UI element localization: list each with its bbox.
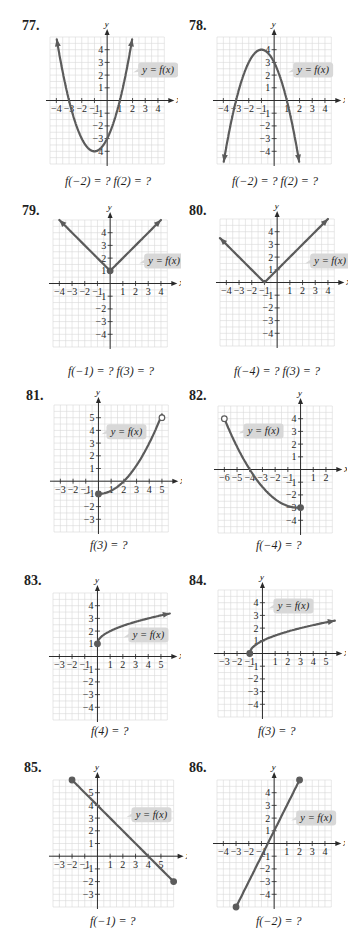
x-axis-label: x (343, 646, 346, 658)
y-tick-label: 3 (268, 238, 273, 249)
x-tick-label: 1 (272, 656, 277, 667)
x-tick-label: −2 (246, 285, 257, 296)
x-axis-label: x (178, 276, 181, 288)
question-caption: f(−2) = ? f(2) = ? (65, 174, 151, 189)
y-tick-label: −2 (262, 302, 273, 313)
x-tick-label: 3 (313, 285, 318, 296)
x-tick-label: −2 (66, 859, 77, 870)
x-tick-label: 2 (297, 103, 302, 114)
x-tick-label: 3 (133, 859, 138, 870)
x-tick-label: −2 (66, 659, 77, 670)
y-tick-label: −2 (82, 876, 93, 887)
x-tick-label: −4 (51, 103, 62, 114)
grid (54, 405, 168, 532)
function-label: y = f(x) (133, 62, 178, 77)
x-tick-label: 2 (324, 472, 329, 483)
y-tick-label: −3 (82, 689, 93, 700)
y-axis-label: y (94, 391, 100, 397)
x-tick-label: 4 (145, 859, 150, 870)
y-tick-label: 2 (292, 438, 297, 449)
x-tick-label: −3 (219, 656, 230, 667)
graph-77: xy−4−3−2−11234−4−3−2−11234y = f(x) (36, 23, 178, 178)
y-tick-label: −1 (92, 107, 103, 118)
x-axis-label: x (342, 93, 345, 105)
x-tick-label: −2 (243, 846, 254, 857)
y-tick-label: 4 (89, 425, 94, 436)
x-tick-label: 4 (325, 285, 330, 296)
y-tick-label: −2 (286, 489, 297, 500)
y-tick-label: −4 (259, 888, 270, 899)
question-caption: f(−2) = ? (256, 914, 302, 929)
y-tick-label: 3 (98, 56, 103, 67)
x-tick-label: −3 (231, 846, 242, 857)
x-tick-label: −2 (270, 472, 281, 483)
question-caption: f(3) = ? (90, 538, 127, 553)
open-dot-icon (159, 415, 165, 421)
y-tick-label: 1 (88, 638, 93, 649)
y-tick-label: 1 (88, 838, 93, 849)
y-tick-label: 1 (265, 825, 270, 836)
graph-82: xy−6−5−4−3−2−112−4−3−2−11234y = f(x) (204, 392, 346, 547)
x-tick-label: 3 (310, 103, 315, 114)
y-tick-label: 2 (253, 622, 258, 633)
y-tick-label: −2 (92, 120, 103, 131)
x-tick-label: 3 (133, 659, 138, 670)
svg-text:y = f(x): y = f(x) (313, 255, 346, 267)
function-label: y = f(x) (139, 253, 181, 268)
x-tick-label: −4 (218, 103, 229, 114)
y-tick-label: −4 (82, 701, 93, 712)
x-tick-label: 2 (130, 103, 135, 114)
y-axis-label: y (273, 205, 279, 211)
svg-text:y = f(x): y = f(x) (276, 600, 309, 612)
y-tick-label: −4 (286, 514, 297, 525)
y-tick-label: 3 (265, 799, 270, 810)
graph-86: xy−4−3−2−11234−4−3−2−11234y = f(x) (203, 766, 345, 921)
x-tick-label: −2 (231, 656, 242, 667)
svg-text:y = f(x): y = f(x) (296, 64, 329, 76)
y-tick-label: 2 (88, 825, 93, 836)
y-tick-label: 4 (292, 413, 297, 424)
function-label: y = f(x) (123, 627, 168, 642)
closed-dot-icon (298, 504, 304, 510)
y-tick-label: 3 (292, 425, 297, 436)
y-tick-label: −4 (247, 698, 258, 709)
graph-78: xy−4−3−2−11234−4−3−2−11234y = f(x) (203, 23, 345, 178)
function-label: y = f(x) (101, 424, 146, 439)
y-axis-label: y (106, 206, 112, 212)
y-tick-label: 3 (88, 812, 93, 823)
y-tick-label: 2 (265, 812, 270, 823)
y-tick-label: −3 (83, 514, 94, 525)
x-tick-label: 3 (310, 846, 315, 857)
closed-dot-icon (246, 650, 252, 656)
x-axis-label: x (178, 649, 181, 661)
grid (53, 780, 174, 907)
svg-text:y = f(x): y = f(x) (247, 425, 280, 437)
x-tick-label: 3 (134, 484, 139, 495)
y-tick-label: −3 (247, 686, 258, 697)
x-axis-label: x (345, 275, 348, 287)
y-axis-label: y (270, 23, 276, 29)
x-tick-label: 1 (284, 846, 289, 857)
x-tick-label: −3 (55, 484, 66, 495)
svg-text:y = f(x): y = f(x) (131, 629, 164, 641)
function-label: y = f(x) (288, 62, 333, 77)
x-tick-label: −6 (219, 472, 230, 483)
open-dot-icon (222, 415, 228, 421)
y-tick-label: 3 (88, 612, 93, 623)
y-tick-label: 4 (98, 44, 103, 55)
x-tick-label: 4 (145, 659, 150, 670)
y-tick-label: 1 (292, 451, 297, 462)
x-tick-label: −5 (232, 472, 243, 483)
exercise-number: 80. (189, 203, 207, 219)
y-tick-label: 3 (265, 56, 270, 67)
x-tick-label: −2 (79, 286, 90, 297)
y-axis-label: y (297, 392, 303, 398)
y-tick-label: −3 (82, 889, 93, 900)
y-tick-label: −1 (82, 863, 93, 874)
y-tick-label: −2 (259, 120, 270, 131)
y-tick-label: −2 (83, 501, 94, 512)
svg-text:y = f(x): y = f(x) (299, 812, 332, 824)
x-tick-label: 2 (285, 656, 290, 667)
function-label: y = f(x) (305, 253, 348, 268)
x-tick-label: 5 (323, 656, 328, 667)
